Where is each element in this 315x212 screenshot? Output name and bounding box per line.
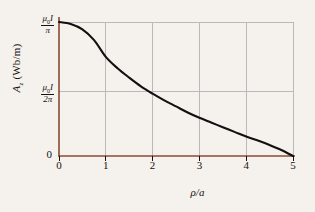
- chart-figure: Az (Wb/m) μ0I π μ0I 2π 0 0 1 2 3 4 5 ρ/a: [0, 0, 315, 212]
- current-symbol-mid: I: [50, 82, 53, 92]
- current-symbol-top: I: [50, 13, 53, 23]
- fraction-mu0-I-over-2pi: μ0I 2π: [41, 83, 54, 104]
- gridlines-horizontal: [59, 22, 293, 91]
- x-tick-label-5: 5: [282, 159, 304, 171]
- fraction-mu0-I-over-pi: μ0I π: [41, 14, 54, 35]
- x-axis-title-text: ρ/a: [191, 186, 205, 198]
- x-tick-label-0: 0: [48, 159, 70, 171]
- x-tick-label-4: 4: [235, 159, 257, 171]
- data-curve: [59, 22, 293, 156]
- x-tick-label-3: 3: [188, 159, 210, 171]
- y-axis-symbol: A: [10, 86, 22, 93]
- y-axis-units: (Wb/m): [10, 44, 22, 80]
- pi-symbol-top: π: [45, 25, 50, 35]
- x-axis-title: ρ/a: [0, 186, 315, 198]
- x-tick-label-2: 2: [142, 159, 164, 171]
- x-tick-label-1: 1: [95, 159, 117, 171]
- y-tick-label-top: μ0I π: [26, 14, 54, 35]
- y-tick-label-mid: μ0I 2π: [22, 83, 54, 104]
- two-pi-symbol-mid: 2π: [43, 94, 52, 104]
- gridlines-vertical: [106, 22, 246, 156]
